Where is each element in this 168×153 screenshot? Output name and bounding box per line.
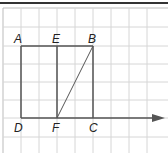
arrow-head-icon	[152, 114, 165, 122]
geometry-diagram: A E B D F C	[0, 0, 168, 153]
label-f: F	[52, 121, 60, 135]
label-e: E	[52, 32, 61, 46]
label-c: C	[89, 121, 98, 135]
label-d: D	[14, 121, 23, 135]
grid	[3, 8, 168, 153]
label-a: A	[13, 32, 22, 46]
label-b: B	[88, 32, 96, 46]
diagram-frame: A E B D F C	[0, 0, 168, 153]
